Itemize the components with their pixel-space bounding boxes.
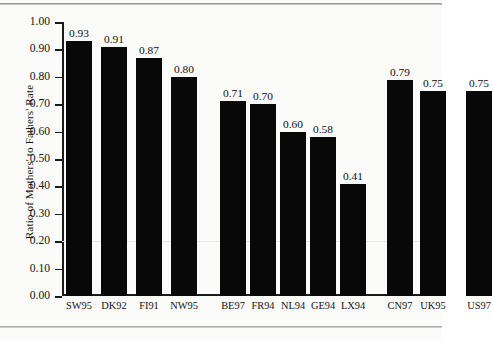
bar-value-label: 0.70 — [253, 90, 273, 102]
x-axis-tick-label: NL94 — [281, 300, 305, 311]
bar-value-label: 0.87 — [139, 44, 159, 56]
bar-value-label: 0.41 — [343, 170, 363, 182]
y-axis-tick — [55, 159, 62, 161]
bar[interactable]: 0.41 — [340, 184, 366, 296]
y-axis-tick-label: 0.90 — [4, 43, 50, 56]
bar-value-label: 0.75 — [469, 77, 489, 89]
bar-category: 0.58GE94 — [310, 22, 336, 296]
bar-category: 0.79CN97 — [387, 22, 413, 296]
bar-value-label: 0.93 — [69, 27, 89, 39]
bar-value-label: 0.75 — [423, 77, 443, 89]
y-axis-tick — [55, 241, 62, 243]
x-axis-tick-label: FR94 — [251, 300, 274, 311]
bar[interactable]: 0.80 — [171, 77, 197, 296]
bar-category: 0.75UK95 — [420, 22, 446, 296]
y-axis-tick — [55, 77, 62, 79]
y-axis-tick-label: 0.70 — [4, 97, 50, 110]
bar-category: 0.87FI91 — [136, 22, 162, 296]
bar-category: 0.60NL94 — [280, 22, 306, 296]
y-axis-tick-label: 0.80 — [4, 70, 50, 83]
bar-category: 0.70FR94 — [250, 22, 276, 296]
y-axis-tick — [55, 186, 62, 188]
y-axis-tick-label: 0.30 — [4, 207, 50, 220]
bar[interactable]: 0.75 — [466, 91, 492, 297]
y-axis-tick-label: 0.50 — [4, 152, 50, 165]
page-rule-top — [0, 3, 442, 5]
y-axis-tick-label: 0.10 — [4, 262, 50, 275]
bar[interactable]: 0.75 — [420, 91, 446, 297]
bar-category: 0.41LX94 — [340, 22, 366, 296]
x-axis-tick-label: NW95 — [170, 300, 198, 311]
bar-category: 0.75US97 — [466, 22, 492, 296]
bar[interactable]: 0.79 — [387, 80, 413, 296]
bar-series: 0.93SW950.91DK920.87FI910.80NW950.71BE97… — [62, 22, 432, 296]
y-axis-tick-label: 0.20 — [4, 234, 50, 247]
x-axis-tick-label: BE97 — [221, 300, 245, 311]
bar-category: 0.93SW95 — [66, 22, 92, 296]
bar-value-label: 0.80 — [174, 63, 194, 75]
y-axis-tick — [55, 104, 62, 106]
y-axis-tick — [55, 296, 62, 298]
bar-value-label: 0.91 — [104, 33, 124, 45]
bar[interactable]: 0.71 — [220, 101, 246, 296]
bar-category: 0.80NW95 — [171, 22, 197, 296]
bar[interactable]: 0.70 — [250, 104, 276, 296]
x-axis-tick-label: DK92 — [101, 300, 126, 311]
bar[interactable]: 0.60 — [280, 132, 306, 296]
x-axis-tick-label: LX94 — [341, 300, 365, 311]
bar[interactable]: 0.87 — [136, 58, 162, 296]
bar-value-label: 0.60 — [283, 118, 303, 130]
bar[interactable]: 0.93 — [66, 41, 92, 296]
bar-value-label: 0.79 — [390, 66, 410, 78]
y-axis-tick-label: 1.00 — [4, 15, 50, 28]
y-axis-tick — [55, 22, 62, 24]
bar-chart-figure: Ratio of Mothers' to Fathers' Rate 1.000… — [0, 8, 442, 320]
bar[interactable]: 0.58 — [310, 137, 336, 296]
y-axis-tick-label: 0.00 — [4, 289, 50, 302]
y-axis-tick — [55, 49, 62, 51]
y-axis-tick-label: 0.40 — [4, 180, 50, 193]
bar-value-label: 0.58 — [313, 123, 333, 135]
x-axis-tick-label: SW95 — [66, 300, 92, 311]
bar-category: 0.71BE97 — [220, 22, 246, 296]
bar[interactable]: 0.91 — [101, 47, 127, 296]
y-axis-tick — [55, 269, 62, 271]
x-axis-tick-label: US97 — [467, 300, 491, 311]
y-axis-tick-label: 0.60 — [4, 125, 50, 138]
bar-value-label: 0.71 — [223, 87, 243, 99]
x-axis-tick-label: FI91 — [139, 300, 159, 311]
bar-category: 0.91DK92 — [101, 22, 127, 296]
y-axis-tick — [55, 214, 62, 216]
page-rule-bottom — [0, 326, 442, 328]
y-axis-tick — [55, 132, 62, 134]
x-axis-tick-label: UK95 — [420, 300, 445, 311]
x-axis-tick-label: CN97 — [388, 300, 413, 311]
plot-area: 1.000.900.800.700.600.500.400.300.200.10… — [62, 22, 432, 296]
x-axis-tick-label: GE94 — [311, 300, 335, 311]
